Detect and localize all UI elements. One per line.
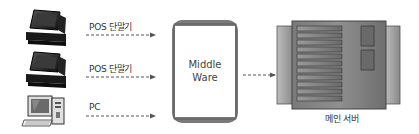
- drive-bays: [297, 26, 342, 101]
- pos-terminal-icon: [26, 10, 66, 46]
- server-label: 메인 서버: [322, 112, 362, 125]
- server-rack-icon: [277, 21, 400, 109]
- client-label-pos1: POS 단말기: [89, 20, 132, 33]
- pos-terminal-icon: [26, 52, 66, 88]
- middleware-label: Middle Ware: [175, 58, 235, 84]
- middleware-label-line1: Middle: [175, 58, 235, 71]
- client-label-pc: PC: [89, 102, 100, 112]
- middleware-label-line2: Ware: [175, 71, 235, 84]
- desktop-pc-icon: [22, 96, 64, 126]
- client-label-pos2: POS 단말기: [89, 62, 132, 75]
